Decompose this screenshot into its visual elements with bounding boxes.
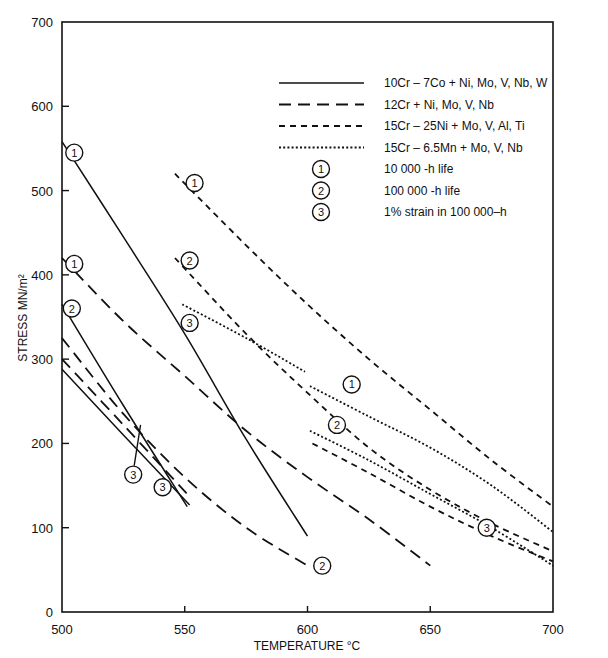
y-tick-label: 500 <box>31 184 53 199</box>
svg-text:1: 1 <box>71 258 77 270</box>
svg-text:3: 3 <box>130 469 136 481</box>
svg-text:3: 3 <box>160 481 166 493</box>
y-tick-label: 700 <box>31 15 53 30</box>
criterion-marker-3: 3 <box>125 466 142 483</box>
criterion-marker-1: 1 <box>343 376 360 393</box>
legend-label: 12Cr + Ni, Mo, V, Nb <box>384 98 494 112</box>
x-tick-label: 550 <box>174 622 196 637</box>
svg-text:3: 3 <box>318 206 324 218</box>
series-line <box>310 386 553 532</box>
legend-label: 15Cr – 25Ni + Mo, V, Al, Ti <box>384 119 525 133</box>
svg-text:2: 2 <box>319 560 325 572</box>
svg-text:2: 2 <box>334 419 340 431</box>
y-tick-label: 400 <box>31 268 53 283</box>
criterion-marker-1: 1 <box>186 174 203 191</box>
criterion-marker-3: 3 <box>181 314 198 331</box>
svg-text:2: 2 <box>69 303 75 315</box>
leader-line <box>134 425 140 466</box>
y-axis-title: STRESS MN/m² <box>16 274 30 361</box>
svg-text:1: 1 <box>71 147 77 159</box>
svg-text:3: 3 <box>187 317 193 329</box>
criterion-marker-2: 2 <box>313 182 330 199</box>
y-tick-label: 100 <box>31 521 53 536</box>
criterion-marker-2: 2 <box>314 557 331 574</box>
y-tick-label: 600 <box>31 99 53 114</box>
criterion-marker-2: 2 <box>63 300 80 317</box>
series-line <box>310 431 553 566</box>
series-line <box>62 258 430 566</box>
x-axis-title: TEMPERATURE °C <box>254 639 361 653</box>
svg-text:3: 3 <box>484 522 490 534</box>
criterion-marker-1: 1 <box>313 161 330 178</box>
criterion-marker-3: 3 <box>313 204 330 221</box>
series-line <box>175 258 553 551</box>
criterion-marker-2: 2 <box>181 252 198 269</box>
legend-label: 10 000 -h life <box>384 162 454 176</box>
svg-text:2: 2 <box>318 185 324 197</box>
legend-label: 15Cr – 6.5Mn + Mo, V, Nb <box>384 141 523 155</box>
criterion-marker-1: 1 <box>66 255 83 272</box>
legend-label: 10Cr – 7Co + Ni, Mo, V, Nb, W <box>384 76 548 90</box>
series-line <box>62 142 308 536</box>
legend-label: 100 000 -h life <box>384 184 460 198</box>
series-line <box>62 338 308 566</box>
y-tick-label: 300 <box>31 352 53 367</box>
criterion-marker-2: 2 <box>328 416 345 433</box>
svg-text:1: 1 <box>349 378 355 390</box>
series-line <box>175 174 553 507</box>
x-tick-label: 500 <box>51 622 73 637</box>
x-tick-label: 600 <box>297 622 319 637</box>
svg-text:1: 1 <box>318 163 324 175</box>
legend: 10Cr – 7Co + Ni, Mo, V, Nb, W12Cr + Ni, … <box>279 76 548 221</box>
criterion-marker-3: 3 <box>478 519 495 536</box>
y-tick-label: 0 <box>46 605 53 620</box>
creep-stress-chart: 0100200300400500600700500550600650700 11… <box>0 0 608 658</box>
x-tick-label: 700 <box>542 622 564 637</box>
criterion-marker-3: 3 <box>154 479 171 496</box>
y-tick-label: 200 <box>31 436 53 451</box>
svg-text:2: 2 <box>187 255 193 267</box>
svg-text:1: 1 <box>192 177 198 189</box>
legend-label: 1% strain in 100 000–h <box>384 205 507 219</box>
x-tick-label: 650 <box>419 622 441 637</box>
criterion-marker-1: 1 <box>66 144 83 161</box>
